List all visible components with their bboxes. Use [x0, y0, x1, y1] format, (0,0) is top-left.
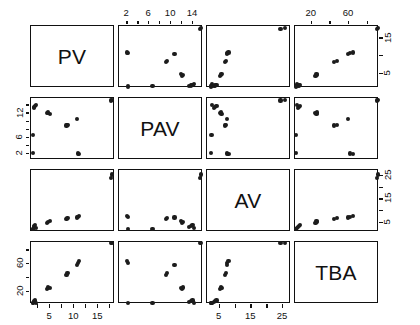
axis-tick-left-pav-minor	[26, 104, 30, 105]
data-point	[172, 215, 176, 219]
data-point	[283, 26, 287, 30]
data-point	[150, 301, 154, 305]
scatter-panel-pav-vs-av	[206, 97, 290, 159]
data-point	[34, 103, 38, 107]
axis-tick-top-pav	[192, 21, 193, 25]
variable-label-pv: PV	[58, 46, 86, 67]
data-point	[65, 271, 69, 275]
data-point	[225, 117, 229, 121]
data-point	[126, 301, 130, 305]
data-point	[150, 227, 154, 231]
data-point	[224, 271, 228, 275]
axis-tick-bottom-av	[282, 304, 283, 308]
axis-label-top-tba: 20	[306, 8, 317, 18]
data-point	[225, 263, 229, 267]
axis-tick-right-av-minor	[379, 187, 383, 188]
axis-tick-top-pav-minor	[159, 21, 160, 25]
data-point	[351, 50, 355, 54]
scatter-panel-av-vs-pav	[118, 169, 202, 231]
axis-tick-left-pav-minor	[26, 129, 30, 130]
axis-label-bottom-av: 25	[277, 311, 288, 321]
data-point	[165, 59, 169, 63]
data-point	[75, 215, 79, 219]
axis-tick-left-tba-minor	[26, 249, 30, 250]
axis-tick-top-tba-minor	[329, 21, 330, 25]
scatter-panel-pv-vs-av	[206, 25, 290, 87]
data-point	[376, 98, 380, 102]
data-point	[192, 301, 196, 305]
data-point	[214, 83, 218, 87]
axis-label-top-pav: 6	[146, 8, 151, 18]
axis-label-bottom-pv: 5	[47, 311, 52, 321]
data-point	[192, 82, 196, 86]
data-point	[126, 227, 130, 231]
scatter-panel-pav-vs-pv	[30, 97, 114, 159]
data-point	[314, 112, 318, 116]
data-point	[214, 298, 218, 302]
data-point	[110, 241, 114, 245]
data-point	[294, 227, 298, 231]
axis-label-bottom-pv: 15	[92, 311, 103, 321]
data-point	[209, 151, 213, 155]
axis-tick-bottom-av	[219, 304, 220, 308]
axis-tick-bottom-pv-minor	[109, 304, 110, 308]
axis-tick-left-pav-minor	[26, 121, 30, 122]
data-point	[110, 98, 114, 102]
axis-tick-left-pav-minor	[26, 145, 30, 146]
data-point	[165, 271, 169, 275]
axis-label-bottom-av: 15	[245, 311, 256, 321]
variable-label-pav: PAV	[140, 118, 180, 139]
diagonal-panel-pav: PAV	[118, 97, 202, 159]
scatter-panel-av-vs-tba	[294, 169, 378, 231]
data-point	[126, 84, 130, 88]
data-point	[75, 117, 79, 121]
data-point	[376, 26, 380, 30]
axis-tick-bottom-av-minor	[235, 304, 236, 308]
axis-tick-top-pav-minor	[137, 21, 138, 25]
data-point	[295, 103, 299, 107]
data-point	[125, 50, 129, 54]
data-point	[278, 98, 282, 102]
axis-tick-top-pav	[148, 21, 149, 25]
scatter-panel-tba-vs-av	[206, 241, 290, 303]
data-point	[209, 133, 213, 137]
data-point	[65, 123, 69, 127]
data-point	[294, 133, 298, 137]
data-point	[335, 216, 339, 220]
data-point	[314, 72, 318, 76]
data-point	[219, 286, 223, 290]
axis-tick-bottom-pv-minor	[85, 304, 86, 308]
data-point	[226, 152, 230, 156]
scatterplot-matrix: PVPAVAVTBA261014206051015515252612206051…	[0, 0, 420, 325]
data-point	[219, 72, 223, 76]
data-point	[335, 59, 339, 63]
data-point	[110, 172, 114, 176]
data-point	[335, 123, 339, 127]
data-point	[346, 215, 350, 219]
data-point	[192, 226, 196, 230]
data-point	[224, 59, 228, 63]
data-point	[351, 214, 355, 218]
axis-tick-right-av-minor	[379, 210, 383, 211]
axis-tick-top-pav	[126, 21, 127, 25]
axis-tick-bottom-av-minor	[266, 304, 267, 308]
axis-tick-left-pav	[26, 153, 30, 154]
axis-label-bottom-av: 5	[216, 311, 221, 321]
axis-tick-left-tba-minor	[26, 277, 30, 278]
data-point	[294, 84, 298, 88]
data-point	[199, 241, 203, 245]
axis-tick-left-tba	[26, 263, 30, 264]
axis-tick-bottom-av	[250, 304, 251, 308]
data-point	[77, 152, 81, 156]
data-point	[294, 151, 298, 155]
axis-tick-left-pav	[26, 137, 30, 138]
scatter-panel-tba-vs-pv	[30, 241, 114, 303]
data-point	[346, 117, 350, 121]
data-point	[65, 216, 69, 220]
axis-tick-bottom-pv-minor	[61, 304, 62, 308]
diagonal-panel-tba: TBA	[294, 241, 378, 303]
axis-tick-bottom-pv-minor	[37, 304, 38, 308]
data-point	[224, 123, 228, 127]
axis-tick-bottom-pv	[73, 304, 74, 308]
data-point	[31, 301, 35, 305]
